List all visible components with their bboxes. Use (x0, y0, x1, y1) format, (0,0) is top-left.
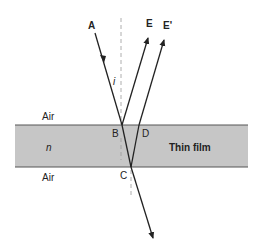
angle-i-label: i (113, 77, 115, 87)
thin-film-diagram (0, 0, 257, 248)
label-E: E (146, 19, 153, 29)
emergent-ray-DE-prime (139, 40, 164, 125)
air-bottom-label: Air (42, 173, 54, 183)
label-B: B (112, 129, 119, 139)
label-D: D (142, 129, 149, 139)
label-E-prime: E' (163, 21, 172, 31)
label-C: C (120, 171, 127, 181)
thin-film-label: Thin film (169, 143, 211, 153)
incident-ray-AB (95, 33, 122, 125)
refractive-index-label: n (46, 143, 52, 153)
reflected-ray-BE (122, 38, 148, 125)
air-top-label: Air (42, 112, 54, 122)
transmitted-ray (131, 167, 153, 238)
label-A: A (88, 21, 95, 31)
